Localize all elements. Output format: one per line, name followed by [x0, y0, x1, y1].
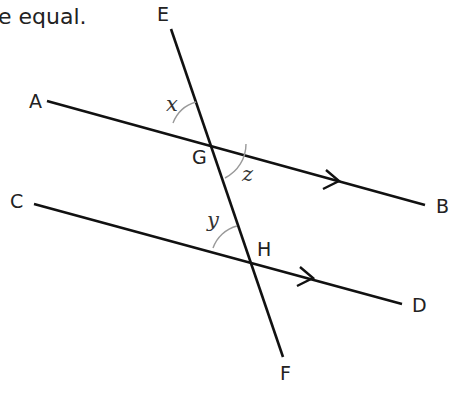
label-point-d: D	[412, 296, 427, 315]
angle-label-z: z	[242, 164, 253, 185]
label-point-a: A	[29, 92, 42, 111]
line-ef	[171, 29, 283, 357]
angle-label-y: y	[207, 210, 219, 231]
label-point-h: H	[257, 240, 271, 259]
angle-label-x: x	[166, 94, 178, 115]
label-point-e: E	[157, 5, 169, 24]
label-point-c: C	[10, 192, 23, 211]
line-ab	[47, 101, 425, 205]
parallel-lines-diagram	[0, 0, 456, 400]
label-point-g: G	[192, 148, 207, 167]
label-point-f: F	[280, 364, 291, 383]
label-point-b: B	[436, 197, 449, 216]
